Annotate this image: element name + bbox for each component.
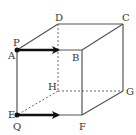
label-e: E [8, 109, 15, 120]
label-p: P [13, 37, 20, 48]
label-g: G [126, 86, 134, 97]
label-f: F [79, 121, 86, 132]
label-a: A [7, 50, 16, 61]
label-b: B [72, 52, 79, 63]
edge-bc [82, 24, 123, 50]
label-d: D [55, 12, 63, 23]
label-h: H [48, 81, 57, 92]
edge-he [17, 91, 58, 115]
visible-edges [17, 24, 123, 115]
cube-figure: P A D C B H G E Q F [0, 0, 136, 135]
edge-ad [17, 24, 58, 50]
edge-fg [82, 91, 123, 115]
point-p [15, 48, 20, 53]
label-q: Q [13, 121, 21, 132]
label-c: C [122, 12, 130, 23]
hidden-edges [17, 24, 123, 115]
